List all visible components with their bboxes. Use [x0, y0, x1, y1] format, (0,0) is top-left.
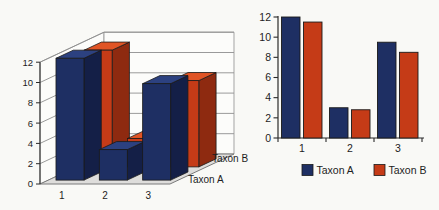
- legend-label-taxon-a: Taxon A: [317, 164, 354, 176]
- bar-side-face: [171, 76, 188, 181]
- legend-label-taxon-b: Taxon B: [389, 164, 427, 176]
- y-tick-label: 8: [265, 51, 271, 63]
- taxon-bar-charts-figure: 024681012123Taxon ATaxon B024681012123Ta…: [0, 0, 439, 210]
- y-tick-label: 4: [28, 138, 33, 149]
- bar-front-face: [56, 58, 84, 180]
- y-tick-label: 0: [28, 178, 33, 189]
- y-tick-label: 10: [259, 31, 271, 43]
- bar-taxon-a-cat2: [99, 142, 144, 181]
- y-tick-label: 2: [265, 112, 271, 124]
- series-axis-label-taxon-a: Taxon A: [188, 174, 224, 185]
- figure-canvas: 024681012123Taxon ATaxon B024681012123Ta…: [0, 0, 439, 210]
- y-tick-label: 6: [265, 71, 271, 83]
- x-tick-label: 1: [59, 190, 65, 201]
- x-tick-label: 3: [395, 142, 401, 154]
- y-tick-label: 2: [28, 158, 33, 169]
- bar-taxon-a-cat3: [143, 76, 188, 181]
- bar-taxon-b-cat1: [304, 22, 323, 138]
- x-tick-label: 2: [102, 190, 108, 201]
- x-tick-label: 1: [299, 142, 305, 154]
- y-tick-label: 8: [28, 97, 33, 108]
- series-axis-label-taxon-b: Taxon B: [212, 153, 248, 164]
- x-tick-label: 2: [347, 142, 353, 154]
- legend: Taxon ATaxon B: [302, 164, 426, 176]
- bar-front-face: [99, 150, 127, 180]
- x-tick-label: 3: [146, 190, 152, 201]
- y-tick-label: 6: [28, 118, 33, 129]
- bar-taxon-b-cat2: [352, 110, 371, 138]
- bar-taxon-a-cat2: [330, 108, 349, 138]
- bar-taxon-a-cat3: [378, 42, 397, 138]
- left-3d-bar-chart: 024681012123Taxon ATaxon B: [22, 32, 248, 201]
- legend-swatch-taxon-b: [374, 165, 385, 176]
- bar-side-face: [84, 50, 101, 180]
- y-tick-label: 12: [259, 11, 271, 23]
- legend-swatch-taxon-a: [302, 165, 313, 176]
- bar-taxon-a-cat1: [56, 50, 101, 180]
- bar-taxon-b-cat3: [400, 52, 419, 138]
- y-tick-label: 4: [265, 91, 271, 103]
- y-tick-label: 12: [22, 57, 33, 68]
- bar-front-face: [143, 84, 171, 180]
- y-tick-label: 10: [22, 77, 33, 88]
- bar-taxon-a-cat1: [282, 17, 301, 138]
- y-tick-label: 0: [265, 132, 271, 144]
- right-2d-bar-chart: 024681012123Taxon ATaxon B: [259, 11, 426, 176]
